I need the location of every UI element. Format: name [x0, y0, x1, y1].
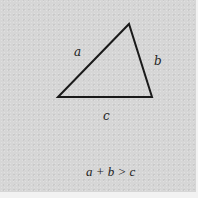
- triangle-diagram: a b c a + b > c: [0, 0, 198, 198]
- side-c-label: c: [103, 109, 110, 123]
- triangle: [58, 24, 152, 97]
- side-a-label: a: [74, 45, 81, 59]
- inequality-caption: a + b > c: [86, 164, 136, 179]
- side-b-label: b: [154, 54, 162, 68]
